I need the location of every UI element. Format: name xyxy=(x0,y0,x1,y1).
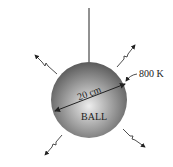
radiation-arrow-bottom-right xyxy=(123,129,145,147)
ball-radiation-diagram: 800 K 20 cm BALL xyxy=(0,0,173,167)
ball xyxy=(51,62,127,138)
temperature-label: 800 K xyxy=(139,68,165,79)
radiation-arrow-top-left xyxy=(35,55,57,74)
temperature-leader xyxy=(126,74,137,81)
radiation-arrow-bottom-left xyxy=(45,135,62,155)
ball-label: BALL xyxy=(81,111,107,122)
radiation-arrow-top-right xyxy=(117,45,135,67)
